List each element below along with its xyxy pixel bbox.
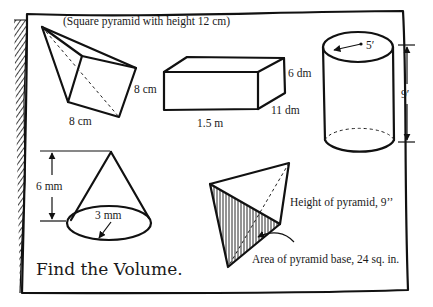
triangular-pyramid-figure: Height of pyramid, 9’’ Area of pyramid b…: [210, 163, 399, 267]
cone-radius-label: 3 mm: [95, 209, 122, 221]
prism-front-face: [164, 72, 258, 110]
triangular-pyramid-base-label: Area of pyramid base, 24 sq. in.: [252, 253, 399, 266]
square-pyramid-outline: [42, 27, 136, 117]
cylinder-radius-label: 5′: [366, 39, 374, 51]
volume-worksheet: (Square pyramid with height 12 cm) 8 cm …: [0, 0, 433, 307]
cone-height-label: 6 mm: [36, 180, 63, 192]
prism-length-label: 1.5 m: [197, 117, 223, 129]
hidden-edge: [42, 27, 119, 117]
cylinder-top: [323, 32, 393, 62]
instruction-text: Find the Volume.: [36, 259, 183, 279]
radius-arrow: [334, 44, 361, 50]
square-pyramid-side-label: 8 cm: [134, 83, 157, 95]
square-pyramid-base-label: 8 cm: [69, 115, 92, 127]
cone-figure: 6 mm 3 mm: [36, 151, 151, 240]
cone-radius-arrow: [99, 222, 111, 238]
prism-depth-label: 11 dm: [271, 104, 300, 116]
cylinder-height-label: 9′: [401, 88, 409, 100]
cylinder-figure: 5′ 9′: [323, 32, 415, 152]
square-pyramid-caption: (Square pyramid with height 12 cm): [63, 15, 230, 28]
rectangular-prism-figure: 6 dm 11 dm 1.5 m: [164, 57, 311, 129]
prism-height-label: 6 dm: [288, 67, 311, 79]
triangular-pyramid-height-label: Height of pyramid, 9’’: [290, 196, 393, 209]
